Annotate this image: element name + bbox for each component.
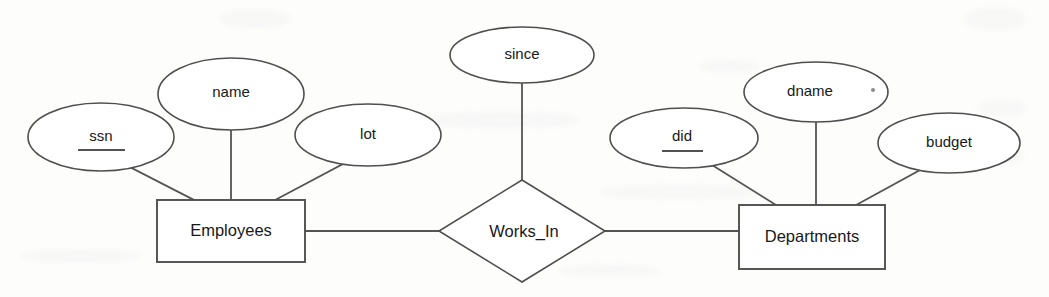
attribute-node-lot[interactable]: lot bbox=[295, 104, 441, 166]
attribute-label-name: name bbox=[212, 83, 250, 100]
attribute-label-dname: dname bbox=[787, 82, 833, 99]
attribute-node-did[interactable]: did bbox=[610, 108, 758, 168]
edge-budget-departments bbox=[856, 169, 922, 205]
attribute-node-since[interactable]: since bbox=[450, 27, 594, 83]
attribute-node-ssn[interactable]: ssn bbox=[28, 103, 174, 171]
relationship-node-works-in[interactable]: Works_In bbox=[439, 180, 605, 282]
er-diagram-canvas: ssn name lot since did dname bbox=[0, 0, 1049, 297]
attribute-label-since: since bbox=[504, 45, 539, 62]
attribute-label-did: did bbox=[672, 127, 692, 144]
attribute-label-ssn: ssn bbox=[89, 127, 112, 144]
attribute-node-name[interactable]: name bbox=[158, 58, 304, 130]
attribute-label-budget: budget bbox=[926, 133, 973, 150]
edge-lot-employees bbox=[275, 164, 343, 200]
entity-node-employees[interactable]: Employees bbox=[157, 200, 305, 262]
attribute-node-budget[interactable]: budget bbox=[878, 113, 1020, 173]
attribute-label-lot: lot bbox=[360, 125, 377, 142]
relationship-label-works-in: Works_In bbox=[489, 222, 558, 241]
entity-label-employees: Employees bbox=[190, 221, 272, 239]
entity-node-departments[interactable]: Departments bbox=[739, 205, 885, 269]
edge-did-departments bbox=[712, 165, 776, 205]
er-diagram-svg: ssn name lot since did dname bbox=[0, 0, 1049, 297]
edge-ssn-employees bbox=[126, 165, 194, 200]
scan-speck-icon bbox=[871, 88, 875, 92]
entity-label-departments: Departments bbox=[765, 227, 859, 245]
attribute-node-dname[interactable]: dname bbox=[744, 62, 888, 122]
